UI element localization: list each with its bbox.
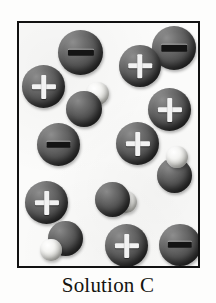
- plus-bar-vertical: [137, 54, 142, 78]
- molecule-group: [66, 82, 111, 127]
- plus-charge-icon: [105, 224, 148, 267]
- molecule-core-sphere: [95, 182, 130, 217]
- negative-ion: [159, 224, 200, 266]
- molecule-core-sphere: [66, 91, 102, 127]
- molecule-hydrogen-sphere: [166, 146, 188, 168]
- plus-charge-icon: [25, 181, 68, 224]
- minus-charge-icon: [159, 224, 200, 266]
- positive-ion: [22, 65, 65, 108]
- molecule-hydrogen-sphere: [40, 239, 62, 261]
- plus-bar-vertical: [41, 74, 47, 98]
- plus-bar-vertical: [124, 233, 130, 257]
- positive-ion: [25, 181, 68, 224]
- ion-sphere: [119, 45, 161, 87]
- negative-ion: [37, 123, 80, 166]
- plus-bar-vertical: [44, 190, 50, 214]
- positive-ion: [116, 122, 159, 165]
- ion-sphere: [105, 224, 148, 267]
- plus-charge-icon: [116, 122, 159, 165]
- plus-charge-icon: [119, 45, 161, 87]
- solution-figure: Solution C: [0, 0, 216, 303]
- ion-sphere: [25, 181, 68, 224]
- negative-molecule: [66, 82, 111, 127]
- negative-molecule: [95, 178, 139, 222]
- molecule-group: [40, 221, 84, 265]
- neutral-molecule: [157, 146, 200, 190]
- solution-container-box: [17, 21, 200, 268]
- plus-charge-icon: [22, 65, 65, 108]
- ion-sphere: [116, 122, 159, 165]
- minus-bar-horizontal: [161, 45, 187, 52]
- positive-ion: [119, 45, 161, 87]
- ion-sphere: [37, 123, 80, 166]
- neutral-molecule: [40, 221, 84, 265]
- figure-caption: Solution C: [0, 272, 216, 298]
- minus-bar-horizontal: [168, 242, 192, 248]
- molecule-group: [157, 146, 200, 190]
- molecule-group: [95, 178, 139, 222]
- positive-ion: [105, 224, 148, 267]
- ion-sphere: [22, 65, 65, 108]
- minus-bar-horizontal: [46, 141, 71, 147]
- minus-charge-icon: [37, 123, 80, 166]
- plus-bar-vertical: [167, 97, 173, 121]
- minus-bar-horizontal: [67, 49, 93, 56]
- ion-sphere: [159, 224, 200, 266]
- plus-bar-vertical: [135, 131, 141, 155]
